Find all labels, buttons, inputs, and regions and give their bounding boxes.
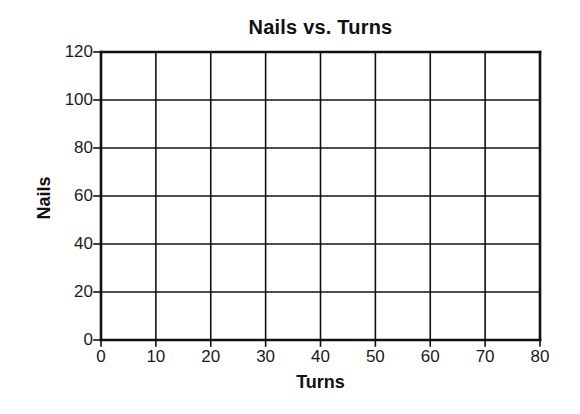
x-tick-label: 70: [465, 348, 505, 365]
y-tick-label: 20: [53, 283, 93, 300]
y-tick-label: 100: [53, 91, 93, 108]
x-tick-label: 80: [520, 348, 560, 365]
y-tick-label: 0: [53, 331, 93, 348]
y-tick-label: 60: [53, 187, 93, 204]
y-tick-label: 80: [53, 139, 93, 156]
x-tick-label: 20: [191, 348, 231, 365]
chart: Nails vs. Turns Nails Turns 020406080100…: [0, 0, 580, 414]
y-tick-label: 40: [53, 235, 93, 252]
x-tick-label: 50: [355, 348, 395, 365]
x-tick-label: 30: [246, 348, 286, 365]
x-tick-label: 40: [301, 348, 341, 365]
x-tick-label: 0: [81, 348, 121, 365]
y-tick-label: 120: [53, 43, 93, 60]
x-tick-label: 10: [136, 348, 176, 365]
x-tick-label: 60: [410, 348, 450, 365]
